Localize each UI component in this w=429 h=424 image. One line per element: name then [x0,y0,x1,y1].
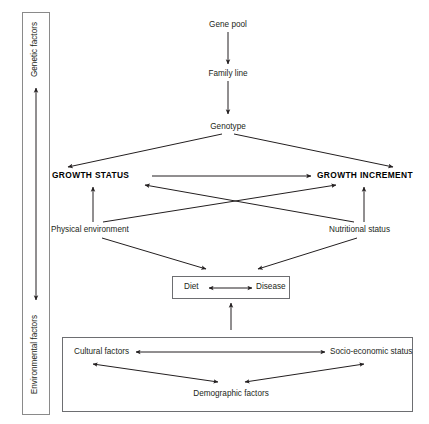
diagram-arrows-layer [0,0,429,424]
axis-label-environmental-factors: Environmental factors [31,315,39,394]
arrow-physical-environment-to-diet [102,238,206,269]
node-demographic-factors: Demographic factors [193,390,269,398]
diagram-canvas: Genetic factors Environmental factors Ge… [0,0,429,424]
node-physical-environment: Physical environment [51,226,129,234]
node-family-line: Family line [208,70,247,78]
node-genotype: Genotype [210,123,246,131]
arrow-physical-environment-to-growth-increment [103,185,336,222]
node-cultural-factors: Cultural factors [74,348,129,356]
arrow-nutritional-status-to-disease [258,238,357,269]
node-gene-pool: Gene pool [209,21,247,29]
node-growth-status: GROWTH STATUS [52,171,129,179]
node-socio-economic-status: Socio-economic status [330,348,412,356]
arrow-socioeconomic-demographic-bidirectional [245,364,364,382]
node-growth-increment: GROWTH INCREMENT [317,171,413,179]
node-diet: Diet [184,283,199,291]
arrow-genotype-to-growth-increment [234,134,393,167]
arrow-nutritional-status-to-growth-status [145,185,354,222]
axis-label-genetic-factors: Genetic factors [31,22,39,77]
arrow-cultural-demographic-bidirectional [93,364,218,382]
node-nutritional-status: Nutritional status [329,226,390,234]
node-disease: Disease [256,283,286,291]
arrow-genotype-to-growth-status [68,134,222,167]
